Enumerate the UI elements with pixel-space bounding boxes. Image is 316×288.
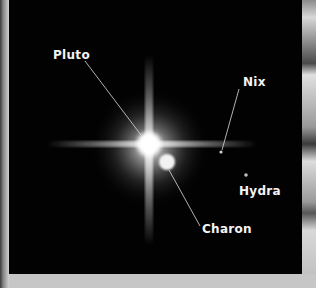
pluto-system-photo: Pluto Nix Hydra Charon [9,0,302,274]
charon-label: Charon [202,222,252,236]
image-frame: Pluto Nix Hydra Charon [0,0,316,288]
adjacent-page-strip [302,0,316,288]
nix-label: Nix [243,75,266,89]
page-edge [0,0,9,288]
starfield-graphic [9,0,302,274]
charon-disc [159,154,175,170]
nix-leader-line [222,89,239,150]
hydra-dot [244,173,248,177]
hydra-label: Hydra [239,184,281,198]
nix-dot [219,150,222,153]
pluto-label: Pluto [53,48,90,62]
bottom-margin [9,274,316,288]
pluto-disc [137,132,161,156]
